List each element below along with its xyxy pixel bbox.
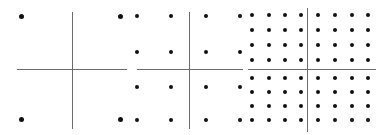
data-point <box>366 58 370 62</box>
data-point <box>366 28 370 32</box>
data-point <box>267 13 271 17</box>
data-point <box>250 28 254 32</box>
data-point <box>250 43 254 47</box>
data-point <box>333 28 337 32</box>
data-point <box>366 90 370 94</box>
data-point <box>299 43 303 47</box>
data-point <box>366 118 370 122</box>
data-point <box>267 90 271 94</box>
data-point <box>350 13 354 17</box>
data-point <box>283 58 287 62</box>
data-point <box>333 90 337 94</box>
data-point <box>350 43 354 47</box>
data-point <box>250 58 254 62</box>
data-point <box>283 76 287 80</box>
data-point <box>250 118 254 122</box>
data-point <box>366 13 370 17</box>
data-point <box>299 90 303 94</box>
data-point <box>316 90 320 94</box>
data-point <box>350 118 354 122</box>
data-point <box>366 104 370 108</box>
data-point <box>267 58 271 62</box>
data-point <box>250 104 254 108</box>
data-point <box>333 43 337 47</box>
panel-fine-x-axis <box>248 69 376 70</box>
data-point <box>250 13 254 17</box>
data-point <box>299 104 303 108</box>
data-point <box>333 13 337 17</box>
data-point <box>316 76 320 80</box>
data-point <box>283 13 287 17</box>
lattice-refinement-figure <box>0 0 376 135</box>
data-point <box>350 90 354 94</box>
data-point <box>267 76 271 80</box>
data-point <box>267 43 271 47</box>
data-point <box>333 58 337 62</box>
data-point <box>283 28 287 32</box>
data-point <box>299 76 303 80</box>
data-point <box>250 76 254 80</box>
data-point <box>350 58 354 62</box>
panel-fine-y-axis <box>307 8 308 132</box>
data-point <box>283 118 287 122</box>
data-point <box>333 104 337 108</box>
data-point <box>350 76 354 80</box>
data-point <box>316 43 320 47</box>
data-point <box>299 58 303 62</box>
data-point <box>283 43 287 47</box>
data-point <box>267 118 271 122</box>
data-point <box>316 13 320 17</box>
data-point <box>299 118 303 122</box>
data-point <box>366 76 370 80</box>
data-point <box>283 104 287 108</box>
data-point <box>267 104 271 108</box>
panel-fine <box>0 0 376 135</box>
data-point <box>283 90 287 94</box>
data-point <box>333 118 337 122</box>
data-point <box>316 58 320 62</box>
data-point <box>366 43 370 47</box>
data-point <box>333 76 337 80</box>
data-point <box>250 90 254 94</box>
data-point <box>316 104 320 108</box>
data-point <box>350 104 354 108</box>
data-point <box>350 28 354 32</box>
data-point <box>299 13 303 17</box>
data-point <box>299 28 303 32</box>
data-point <box>316 28 320 32</box>
data-point <box>267 28 271 32</box>
data-point <box>316 118 320 122</box>
